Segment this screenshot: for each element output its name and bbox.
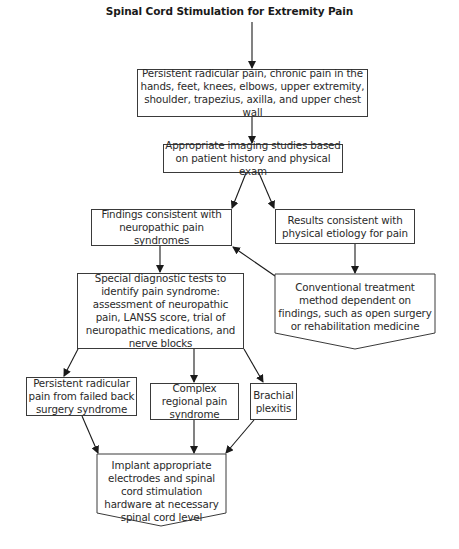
node-conventional-treatment: Conventional treatment method dependent … bbox=[277, 276, 433, 332]
node-presenting-symptoms: Persistent radicular pain, chronic pain … bbox=[137, 69, 368, 117]
arrow-fbss-to-implant bbox=[82, 416, 98, 453]
node-text: Implant appropriate electrodes and spina… bbox=[99, 459, 224, 524]
node-brachial-plexitis: Brachial plexitis bbox=[250, 383, 297, 420]
node-implant-hardware: Implant appropriate electrodes and spina… bbox=[99, 456, 224, 512]
node-text: Complex regional pain syndrome bbox=[157, 382, 232, 421]
node-text: Results consistent with physical etiolog… bbox=[276, 214, 414, 240]
node-text: Conventional treatment method dependent … bbox=[277, 281, 433, 333]
node-failed-back-surgery: Persistent radicular pain from failed ba… bbox=[26, 377, 137, 416]
node-neuropathic-findings: Findings consistent with neuropathic pai… bbox=[91, 209, 232, 246]
node-imaging-studies: Appropriate imaging studies based on pat… bbox=[163, 144, 343, 173]
node-text: Brachial plexitis bbox=[251, 389, 296, 415]
arrow-imaging-to-neuropathic bbox=[232, 173, 246, 208]
arrow-diagnostic-to-fbss bbox=[64, 349, 78, 376]
node-text: Findings consistent with neuropathic pai… bbox=[92, 208, 231, 247]
node-text: Persistent radicular pain from failed ba… bbox=[27, 377, 136, 416]
node-text: Appropriate imaging studies based on pat… bbox=[164, 139, 342, 178]
node-complex-regional-pain: Complex regional pain syndrome bbox=[150, 383, 239, 420]
arrow-imaging-to-physical bbox=[259, 173, 274, 208]
arrow-diagnostic-to-brachial bbox=[244, 349, 263, 382]
node-text: Persistent radicular pain, chronic pain … bbox=[138, 67, 367, 119]
arrow-brachial-to-implant bbox=[226, 420, 254, 453]
node-physical-etiology: Results consistent with physical etiolog… bbox=[275, 209, 415, 244]
node-diagnostic-tests: Special diagnostic tests to identify pai… bbox=[77, 273, 244, 349]
node-text: Special diagnostic tests to identify pai… bbox=[82, 272, 239, 350]
arrow-conventional-to-neuropathic bbox=[233, 247, 275, 276]
